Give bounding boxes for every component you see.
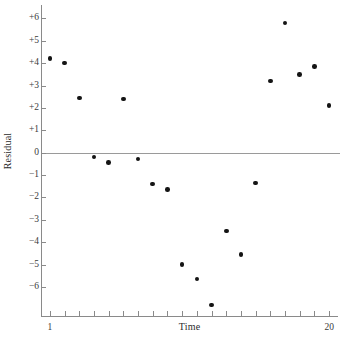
data-point <box>297 72 302 77</box>
y-tick-label: −5 <box>13 260 39 270</box>
x-tick-mark <box>241 311 242 316</box>
x-axis-line <box>41 316 338 317</box>
x-tick-mark <box>153 311 154 316</box>
x-tick-mark <box>138 311 139 316</box>
x-tick-mark <box>167 311 168 316</box>
y-axis-title: Residual <box>3 119 13 183</box>
y-tick-label: +6 <box>13 13 39 23</box>
y-tick-label-wrap: +6 <box>0 13 39 23</box>
x-tick-mark <box>50 311 51 316</box>
y-tick-label: −1 <box>13 170 39 180</box>
x-tick-mark <box>212 311 213 316</box>
y-tick-mark <box>41 86 46 87</box>
x-tick-mark <box>270 311 271 316</box>
y-axis-line <box>41 5 42 317</box>
data-point <box>48 56 53 61</box>
data-point <box>136 157 141 162</box>
data-point <box>253 181 258 186</box>
y-tick-label: +2 <box>13 103 39 113</box>
data-point <box>312 64 317 69</box>
x-tick-mark <box>79 311 80 316</box>
x-tick-mark <box>94 311 95 316</box>
y-tick-label: −4 <box>13 237 39 247</box>
y-tick-mark <box>41 265 46 266</box>
x-tick-mark <box>314 311 315 316</box>
y-tick-mark <box>41 175 46 176</box>
y-tick-mark <box>41 197 46 198</box>
y-tick-mark <box>41 242 46 243</box>
x-tick-mark <box>285 311 286 316</box>
y-tick-mark <box>41 153 46 154</box>
data-point <box>224 229 229 234</box>
x-tick-mark <box>65 311 66 316</box>
zero-reference-line <box>41 153 340 154</box>
y-tick-mark <box>41 18 46 19</box>
x-tick-mark <box>329 311 330 316</box>
y-tick-label-wrap: −5 <box>0 260 39 270</box>
data-point <box>283 21 288 26</box>
y-tick-mark <box>41 220 46 221</box>
x-tick-mark <box>256 311 257 316</box>
data-point <box>121 97 126 102</box>
data-point <box>106 160 111 165</box>
y-tick-mark <box>41 130 46 131</box>
y-tick-label: +5 <box>13 36 39 46</box>
y-tick-label: +1 <box>13 125 39 135</box>
y-tick-label-wrap: +2 <box>0 103 39 113</box>
y-tick-label: +4 <box>13 58 39 68</box>
data-point <box>180 262 185 267</box>
x-tick-mark <box>123 311 124 316</box>
data-point <box>239 252 244 257</box>
y-tick-label: −2 <box>13 192 39 202</box>
y-tick-label: −3 <box>13 215 39 225</box>
data-point <box>77 96 82 101</box>
y-tick-mark <box>41 41 46 42</box>
x-tick-mark <box>197 311 198 316</box>
data-point <box>195 277 200 282</box>
y-tick-label-wrap: −4 <box>0 237 39 247</box>
y-tick-mark <box>41 63 46 64</box>
y-tick-label: −6 <box>13 282 39 292</box>
x-tick-mark <box>300 311 301 316</box>
x-tick-mark <box>226 311 227 316</box>
y-tick-label-wrap: −3 <box>0 215 39 225</box>
y-tick-label-wrap: +4 <box>0 58 39 68</box>
x-tick-mark <box>109 311 110 316</box>
data-point <box>92 155 97 160</box>
data-point <box>268 79 273 84</box>
data-point <box>165 187 170 192</box>
y-tick-label-wrap: +3 <box>0 81 39 91</box>
y-tick-mark <box>41 287 46 288</box>
y-tick-label-wrap: −6 <box>0 282 39 292</box>
data-point <box>209 303 214 308</box>
y-tick-label-wrap: −2 <box>0 192 39 202</box>
residual-scatter-plot: +6+5+4+3+2+10−1−2−3−4−5−6 120 Residual T… <box>0 0 343 343</box>
y-tick-label: 0 <box>13 148 39 158</box>
y-tick-label-wrap: +5 <box>0 36 39 46</box>
x-axis-title: Time <box>41 322 338 332</box>
y-tick-label: +3 <box>13 81 39 91</box>
data-point <box>150 182 155 187</box>
data-point <box>327 103 332 108</box>
x-tick-mark <box>182 311 183 316</box>
data-point <box>62 61 67 66</box>
y-tick-mark <box>41 108 46 109</box>
